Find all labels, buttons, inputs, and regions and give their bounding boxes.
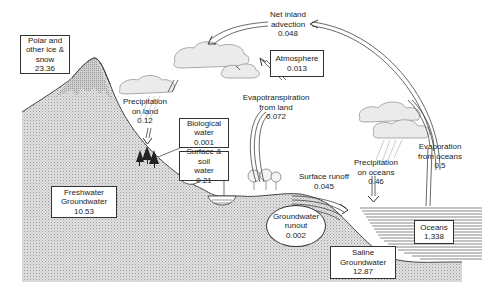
polar-ice-line2: other ice & [26, 45, 64, 55]
arrowhead-precip-ocean [368, 196, 379, 202]
net-inland-advection-line1: Net inland [258, 10, 318, 20]
groundwater-runout-ellipse: Groundwater runout 0.002 [266, 205, 326, 247]
net-inland-advection-value: 0.048 [258, 29, 318, 39]
saline-groundwater-value: 12.87 [353, 267, 373, 277]
surface-soil-water-line2: water [194, 166, 214, 176]
oceans-box: Oceans 1,338 [414, 220, 454, 244]
evaporation-from-oceans-line2: from oceans [410, 152, 470, 162]
groundwater-runout-line2: runout [285, 221, 308, 231]
precip-land-line-1 [146, 128, 148, 138]
biological-water-line1: Biological [187, 119, 221, 129]
precipitation-on-land-line2: on land [114, 107, 176, 117]
biological-water-box: Biological water 0.001 [179, 118, 229, 148]
groundwater-runout-line1: Groundwater [273, 212, 319, 222]
land-clouds [119, 42, 259, 94]
evaporation-from-oceans-line1: Evaporation [410, 142, 470, 152]
precip-land-line-2 [149, 128, 151, 138]
evapotranspiration-line1: Evapotranspiration [236, 93, 316, 103]
bottom-margin [0, 282, 499, 294]
surface-runoff-value: 0.045 [296, 182, 352, 192]
surface-soil-water-line1: Surface & soil [180, 147, 228, 166]
freshwater-groundwater-line2: Groundwater [61, 197, 107, 207]
polar-ice-box: Polar and other ice & snow 23.36 [20, 35, 70, 74]
polar-ice-line3: snow [36, 55, 55, 65]
freshwater-groundwater-box: Freshwater Groundwater 10.53 [51, 186, 117, 218]
atmosphere-value: 0.013 [287, 64, 307, 74]
water-cycle-diagram: Polar and other ice & snow 23.36 Atmosph… [0, 0, 499, 294]
groundwater-runout-value: 0.002 [286, 231, 306, 241]
biological-water-line2: water [194, 128, 214, 138]
freshwater-groundwater-value: 10.53 [74, 207, 94, 217]
evaporation-from-oceans-label: Evaporation from oceans 0.5 [410, 142, 470, 171]
saline-groundwater-box: Saline Groundwater 12.87 [330, 246, 396, 279]
precipitation-on-oceans-line2: on oceans [348, 168, 404, 178]
evapotranspiration-label: Evapotranspiration from land 0.072 [236, 93, 316, 122]
surface-runoff-label: Surface runoff 0.045 [296, 172, 352, 191]
saline-groundwater-line1: Saline [352, 248, 374, 258]
evapotranspiration-line2: from land [236, 103, 316, 113]
atmosphere-label: Atmosphere [275, 54, 318, 64]
saline-groundwater-line2: Groundwater [340, 258, 386, 268]
precipitation-on-land-value: 0.12 [114, 116, 176, 126]
surface-soil-water-value: 0.21 [196, 176, 212, 186]
surface-runoff-line1: Surface runoff [296, 172, 352, 182]
polar-ice-line1: Polar and [28, 36, 62, 46]
precipitation-on-land-label: Precipitation on land 0.12 [114, 97, 176, 126]
net-inland-advection-label: Net inland advection 0.048 [258, 10, 318, 39]
net-inland-advection-line2: advection [258, 20, 318, 30]
freshwater-groundwater-line1: Freshwater [64, 188, 104, 198]
evaporation-from-oceans-value: 0.5 [410, 161, 470, 171]
oceans-label: Oceans [420, 223, 448, 233]
arrowhead-runoff [340, 204, 348, 214]
evapotranspiration-value: 0.072 [236, 112, 316, 122]
arrowhead-evapo [260, 58, 266, 66]
precipitation-on-oceans-label: Precipitation on oceans 0.46 [348, 158, 404, 187]
oceans-value: 1,338 [424, 232, 444, 242]
precipitation-on-oceans-line1: Precipitation [348, 158, 404, 168]
ocean-clouds [359, 102, 429, 138]
atmosphere-box: Atmosphere 0.013 [270, 50, 324, 77]
biological-water-value: 0.001 [194, 138, 214, 148]
precipitation-on-oceans-value: 0.46 [348, 177, 404, 187]
precipitation-on-land-line1: Precipitation [114, 97, 176, 107]
surface-soil-water-box: Surface & soil water 0.21 [179, 151, 229, 181]
polar-ice-value: 23.36 [35, 64, 55, 74]
